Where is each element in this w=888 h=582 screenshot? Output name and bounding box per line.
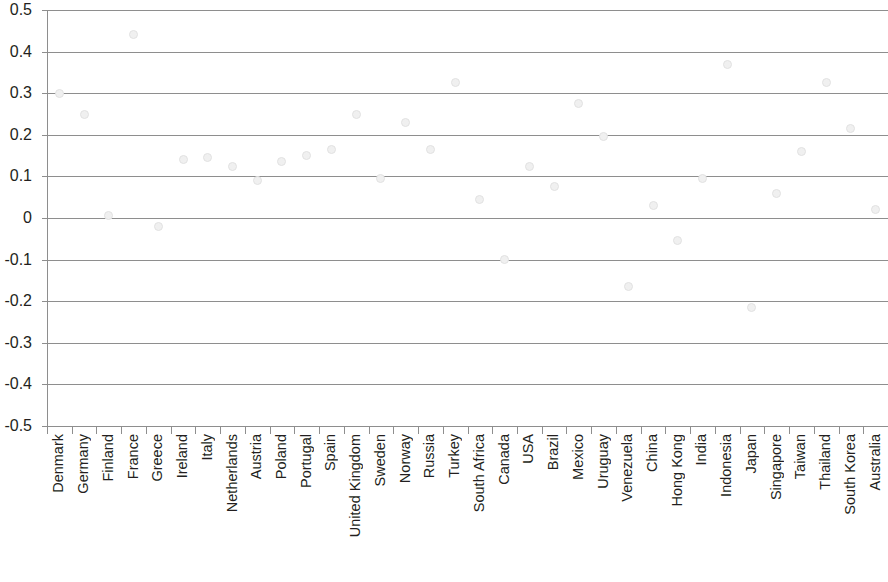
y-axis-tick (42, 10, 48, 11)
gridline (47, 176, 888, 177)
data-point (574, 99, 583, 108)
y-axis-tick (42, 301, 48, 302)
x-axis-tick-label: Finland (101, 434, 116, 482)
data-point (772, 189, 781, 198)
gridline (47, 218, 888, 219)
x-axis-tick-label: Mexico (571, 434, 586, 480)
data-point (822, 78, 831, 87)
x-axis-tick (47, 427, 48, 434)
x-axis-tick-label: South Africa (472, 434, 487, 512)
x-axis-tick-label: Spain (323, 434, 338, 471)
y-axis-tick (42, 343, 48, 344)
data-point (277, 157, 286, 166)
x-axis-tick (814, 427, 815, 434)
x-axis-tick (72, 427, 73, 434)
x-axis-tick-label: Austria (249, 434, 264, 479)
gridline (47, 260, 888, 261)
y-axis-tick (42, 218, 48, 219)
data-point (376, 174, 385, 183)
y-axis-tick-label: -0.2 (4, 293, 32, 309)
x-axis-tick-label: Norway (398, 434, 413, 483)
x-axis-tick-label: Australia (868, 434, 883, 490)
gridline (47, 135, 888, 136)
x-axis-tick (641, 427, 642, 434)
gridline (47, 52, 888, 53)
data-point (723, 60, 732, 69)
x-axis-tick (468, 427, 469, 434)
x-axis-tick-label: Italy (200, 434, 215, 461)
y-axis-tick (42, 176, 48, 177)
x-axis-tick (294, 427, 295, 434)
y-axis-tick-label: 0 (23, 210, 32, 226)
y-axis-tick-label: 0.4 (10, 44, 32, 60)
gridline (47, 10, 888, 11)
data-point (624, 282, 633, 291)
data-point (500, 255, 509, 264)
x-axis-tick-label: Ireland (175, 434, 190, 478)
x-axis-tick (690, 427, 691, 434)
x-axis-tick-label: Uruguay (596, 434, 611, 489)
x-axis-tick-label: USA (521, 434, 536, 464)
scatter-chart: 0.50.40.30.20.10-0.1-0.2-0.3-0.4-0.5 Den… (0, 0, 888, 582)
y-axis-tick-label: 0.2 (10, 127, 32, 143)
data-point (846, 124, 855, 133)
x-axis-tick-label: Poland (274, 434, 289, 479)
data-point (871, 205, 880, 214)
x-axis-tick-label: India (694, 434, 709, 465)
y-axis-tick (42, 384, 48, 385)
data-point (599, 132, 608, 141)
x-axis-tick (839, 427, 840, 434)
x-axis-tick (393, 427, 394, 434)
plot-area (47, 10, 888, 426)
gridline (47, 93, 888, 94)
y-axis-tick-label: 0.5 (10, 2, 32, 18)
x-axis-tick-label: Brazil (546, 434, 561, 470)
data-point (649, 201, 658, 210)
x-axis-tick-label: Venezuela (620, 434, 635, 502)
x-axis-tick (146, 427, 147, 434)
x-axis-tick-label: Turkey (447, 434, 462, 478)
data-point (302, 151, 311, 160)
data-point (451, 78, 460, 87)
data-point (550, 182, 559, 191)
x-axis-tick (195, 427, 196, 434)
x-axis-tick-label: Hong Kong (670, 434, 685, 507)
gridline (47, 301, 888, 302)
y-axis-tick (42, 260, 48, 261)
data-point (80, 110, 89, 119)
gridline (47, 384, 888, 385)
data-point (673, 236, 682, 245)
data-point (426, 145, 435, 154)
x-axis-tick-label: Netherlands (225, 434, 240, 512)
x-axis-tick-label: Russia (422, 434, 437, 478)
x-axis-tick (517, 427, 518, 434)
x-axis-tick (418, 427, 419, 434)
data-point (401, 118, 410, 127)
data-point (525, 162, 534, 171)
x-axis-tick-label: Canada (497, 434, 512, 485)
x-axis-tick (270, 427, 271, 434)
data-point (228, 162, 237, 171)
x-axis-tick-label: China (645, 434, 660, 472)
data-point (327, 145, 336, 154)
x-axis-tick (220, 427, 221, 434)
y-axis-tick-label: -0.5 (4, 418, 32, 434)
data-point (475, 195, 484, 204)
y-axis-tick-label: 0.1 (10, 168, 32, 184)
x-axis-labels: DenmarkGermanyFinlandFranceGreeceIreland… (0, 434, 888, 582)
x-axis-tick (319, 427, 320, 434)
x-axis-tick (863, 427, 864, 434)
data-point (104, 211, 113, 220)
x-axis-tick-label: Taiwan (793, 434, 808, 479)
x-axis-tick (566, 427, 567, 434)
x-axis-tick (715, 427, 716, 434)
x-axis-tick-label: Germany (76, 434, 91, 494)
data-point (154, 222, 163, 231)
x-axis-tick-label: France (126, 434, 141, 479)
x-axis-tick-label: Portugal (299, 434, 314, 488)
x-axis-tick-label: Thailand (818, 434, 833, 490)
x-axis-tick-label: Indonesia (719, 434, 734, 497)
x-axis-tick-label: Singapore (769, 434, 784, 500)
data-point (55, 89, 64, 98)
data-point (129, 30, 138, 39)
